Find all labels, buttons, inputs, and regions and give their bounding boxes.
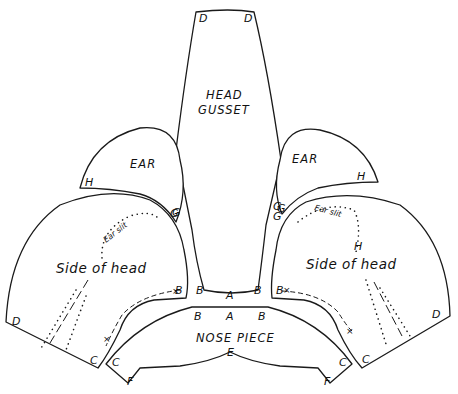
label-c-nose-right: C	[339, 356, 347, 369]
label-c-side-right: C	[362, 353, 370, 366]
sewing-pattern-diagram: D D HEAD GUSSET A B B EAR H G EAR H G Ea…	[0, 0, 458, 394]
label-b-gusset-right: B	[254, 284, 262, 297]
ear-right-title: EAR	[292, 152, 318, 166]
label-h-side-right: H	[354, 240, 362, 253]
head-gusset-title-2: GUSSET	[198, 103, 250, 117]
cross-mark-left-2: ×	[103, 334, 111, 344]
label-d-left: D	[199, 12, 207, 25]
cross-mark-right-1: ×	[283, 285, 291, 295]
label-b-nose-left: B	[194, 310, 202, 323]
label-f-nose-right: F	[324, 375, 331, 388]
label-h-ear-left: H	[85, 176, 93, 189]
label-d-right: D	[244, 12, 252, 25]
label-c-nose-left: C	[112, 356, 120, 369]
label-d-side-right: D	[432, 308, 440, 321]
head-gusset-piece: D D HEAD GUSSET A B B	[176, 10, 281, 302]
label-b-side-left: B	[175, 284, 183, 297]
head-gusset-title-1: HEAD	[206, 88, 243, 102]
cross-mark-right-2: ×	[346, 326, 354, 336]
label-b-side-right: B	[276, 284, 284, 297]
label-g-gusset-right: G	[273, 200, 282, 213]
label-a-nose: A	[225, 310, 234, 323]
label-g-gusset-left: G	[172, 206, 181, 219]
label-d-side-left: D	[12, 315, 20, 328]
label-a-gusset: A	[225, 289, 234, 302]
label-c-side-left: C	[90, 354, 98, 367]
ear-left-title: EAR	[130, 157, 156, 171]
label-f-nose-left: F	[127, 375, 134, 388]
label-b-gusset-left: B	[196, 284, 204, 297]
nose-piece: B A B NOSE PIECE E C C F F	[106, 307, 352, 388]
side-right-title: Side of head	[306, 256, 397, 272]
label-b-nose-right: B	[258, 310, 266, 323]
label-h-ear-right: H	[357, 170, 365, 183]
label-e-nose: E	[227, 346, 234, 359]
nose-piece-title: NOSE PIECE	[196, 331, 275, 345]
side-left-title: Side of head	[56, 260, 147, 276]
